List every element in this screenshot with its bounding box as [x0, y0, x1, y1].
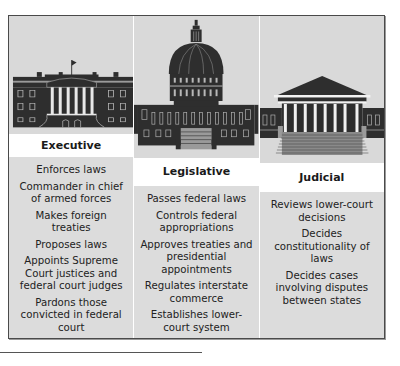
- power-item: Approves treaties and presidential appoi…: [140, 239, 252, 277]
- power-item: Decides cases involving disputes between…: [266, 270, 378, 308]
- power-item: Passes federal laws: [140, 193, 252, 206]
- power-item: Proposes laws: [15, 239, 127, 252]
- power-item: Makes foreign treaties: [15, 210, 127, 235]
- power-item: Regulates interstate commerce: [140, 280, 252, 305]
- power-item: Establishes lower-court system: [140, 309, 252, 334]
- power-item: Pardons those convicted in federal court: [15, 297, 127, 335]
- branch-header: Executive: [9, 134, 133, 157]
- column-judicial: Judicial Reviews lower-court decisions D…: [259, 16, 384, 338]
- power-item: Controls federal appropriations: [140, 210, 252, 235]
- power-item: Commander in chief of armed forces: [15, 181, 127, 206]
- powers-list: Enforces laws Commander in chief of arme…: [9, 157, 133, 338]
- column-executive: Executive Enforces laws Commander in chi…: [9, 16, 133, 338]
- branch-header: Judicial: [260, 163, 384, 192]
- footnote-divider: [0, 352, 202, 353]
- power-item: Enforces laws: [15, 164, 127, 177]
- branches-of-government-table: Executive Enforces laws Commander in chi…: [8, 15, 385, 339]
- power-item: Appoints Supreme Court justices and fede…: [15, 255, 127, 293]
- powers-list: Reviews lower-court decisions Decides co…: [260, 192, 384, 338]
- supreme-court-icon: [260, 16, 384, 163]
- power-item: Decides constitutionality of laws: [266, 228, 378, 266]
- column-legislative: Legislative Passes federal laws Controls…: [133, 16, 258, 338]
- branch-header: Legislative: [134, 158, 258, 186]
- capitol-building-icon: [134, 16, 258, 158]
- power-item: Reviews lower-court decisions: [266, 199, 378, 224]
- powers-list: Passes federal laws Controls federal app…: [134, 186, 258, 338]
- white-house-icon: [9, 16, 133, 134]
